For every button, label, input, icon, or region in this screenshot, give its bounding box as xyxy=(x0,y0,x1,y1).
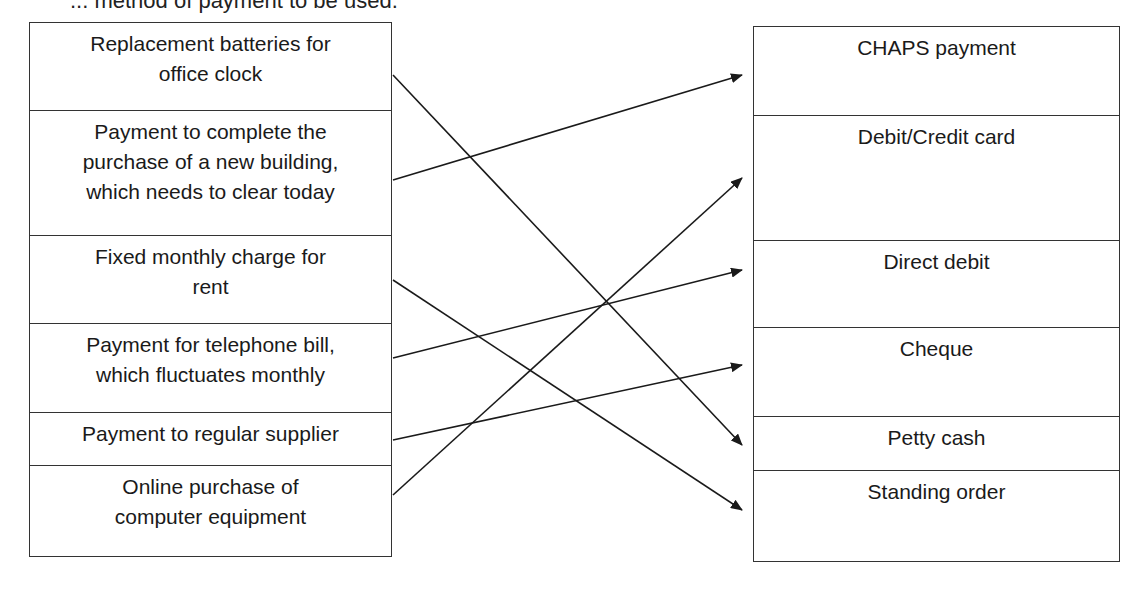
arrow-line xyxy=(393,75,742,180)
arrow-line xyxy=(393,75,742,445)
arrow-line xyxy=(393,178,742,495)
connection-arrows xyxy=(0,0,1146,592)
arrow-lines xyxy=(393,75,742,510)
arrow-line xyxy=(393,365,742,440)
